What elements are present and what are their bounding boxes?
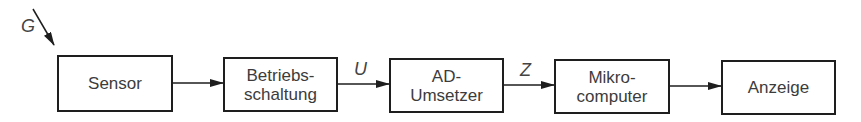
block-label-line-1: AD- [432,67,461,86]
input-arrow [33,9,54,45]
block-ad-umsetzer: AD- Umsetzer [389,58,504,113]
block-diagram: G U Z Sensor Betriebs- schaltung AD- Ums… [0,0,861,122]
block-label-line-1: Mikro- [588,68,635,87]
block-mikrocomputer: Mikro- computer [554,59,670,114]
block-label-line-2: Umsetzer [410,86,483,105]
block-label-line-1: Betriebs- [246,66,314,85]
signal-label-z: Z [520,60,531,81]
block-label-line-2: schaltung [244,85,317,104]
block-label: Anzeige [748,78,809,97]
block-betriebsschaltung: Betriebs- schaltung [223,57,338,112]
input-signal-label: G [21,16,35,37]
block-label-line-2: computer [577,87,648,106]
block-label: Sensor [88,74,142,93]
block-anzeige: Anzeige [721,60,836,115]
block-sensor: Sensor [57,55,173,112]
signal-label-u: U [354,59,367,80]
